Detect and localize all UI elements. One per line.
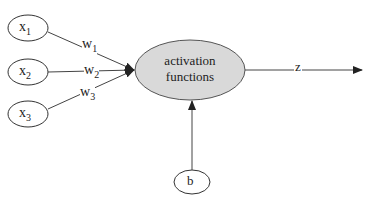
activation-label-line1: activation [135, 53, 245, 69]
weight-label-w3: w3 [80, 86, 95, 103]
activation-label: activation functions [135, 53, 245, 85]
bias-label: b [187, 173, 194, 189]
input-label-x2: x2 [19, 63, 31, 81]
weight-label-w1: w1 [82, 38, 97, 55]
weight-label-w2: w2 [84, 64, 99, 81]
input-label-x3: x3 [19, 105, 31, 123]
neuron-diagram [0, 0, 373, 202]
input-label-x1: x1 [19, 19, 31, 37]
output-label: z [294, 61, 302, 73]
activation-label-line2: functions [135, 69, 245, 85]
